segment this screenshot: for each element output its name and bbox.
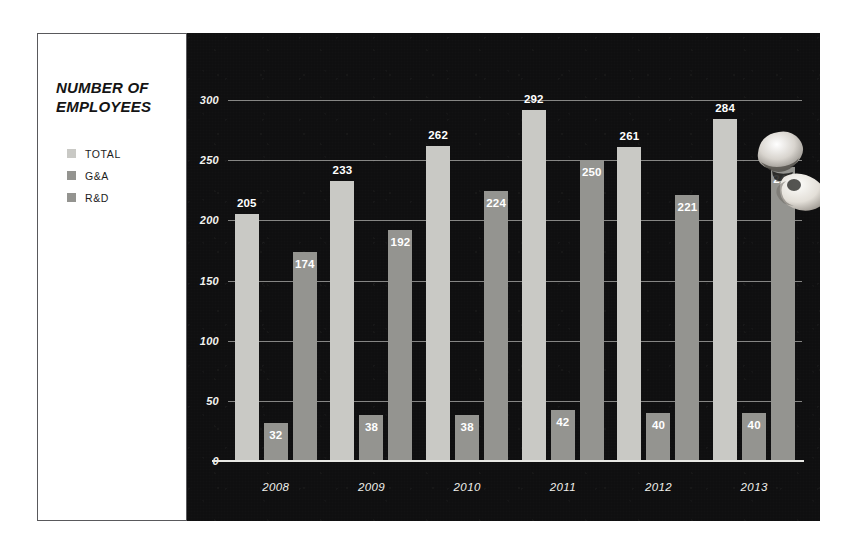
bar-value-label: 32 — [269, 429, 282, 441]
bar-total-2013[interactable]: 284 — [713, 119, 737, 461]
bar-total-2012[interactable]: 261 — [617, 147, 641, 461]
page-title: NUMBER OFEMPLOYEES — [56, 78, 176, 116]
bar-r-d-2009[interactable]: 192 — [388, 230, 412, 461]
bar-group-2008: 205321742008 — [228, 100, 324, 461]
bar-value-label: 221 — [678, 201, 698, 213]
bar-r-d-2008[interactable]: 174 — [293, 252, 317, 461]
bar-r-d-2012[interactable]: 221 — [675, 195, 699, 461]
legend-swatch-icon — [67, 149, 76, 158]
plot-area: 050100150200250300 205321742008233381922… — [228, 100, 802, 461]
legend-item-label: TOTAL — [85, 148, 121, 160]
y-axis-tick-label: 150 — [200, 275, 219, 287]
x-axis-tick-label: 2008 — [262, 481, 289, 493]
y-axis-tick-label: 250 — [200, 154, 219, 166]
x-axis-tick-label: 2009 — [358, 481, 385, 493]
y-axis-tick-label: 300 — [200, 94, 219, 106]
bar-value-label: 233 — [333, 164, 353, 176]
bar-total-2010[interactable]: 262 — [426, 146, 450, 461]
bar-group-2013: 284402442013 — [706, 100, 802, 461]
bar-g-a-2008[interactable]: 32 — [264, 423, 288, 462]
bar-value-label: 205 — [237, 197, 257, 209]
y-axis-tick-label: 200 — [200, 214, 219, 226]
bar-value-label: 40 — [748, 419, 761, 431]
bar-value-label: 250 — [582, 166, 602, 178]
bar-total-2008[interactable]: 205 — [235, 214, 259, 461]
y-axis-tick-label: 50 — [206, 395, 219, 407]
bar-group-2010: 262382242010 — [419, 100, 515, 461]
bar-r-d-2011[interactable]: 250 — [580, 160, 604, 461]
axis-baseline — [212, 460, 804, 462]
bar-g-a-2009[interactable]: 38 — [359, 415, 383, 461]
bar-total-2011[interactable]: 292 — [522, 110, 546, 461]
bar-r-d-2013[interactable]: 244 — [771, 167, 795, 461]
y-axis-tick-label: 100 — [200, 335, 219, 347]
bar-value-label: 262 — [428, 129, 448, 141]
x-axis-tick-label: 2011 — [550, 481, 576, 493]
scanned-page: 050100150200250300 205321742008233381922… — [0, 0, 849, 554]
bar-r-d-2010[interactable]: 224 — [484, 191, 508, 461]
page-title-line-1: EMPLOYEES — [56, 97, 176, 116]
bar-group-2011: 292422502011 — [515, 100, 611, 461]
bar-g-a-2013[interactable]: 40 — [742, 413, 766, 461]
legend-card: NUMBER OFEMPLOYEES TOTALG&AR&D — [37, 33, 187, 521]
bar-value-label: 174 — [295, 258, 315, 270]
legend-item-label: R&D — [85, 192, 109, 204]
bar-value-label: 42 — [556, 416, 569, 428]
bar-g-a-2010[interactable]: 38 — [455, 415, 479, 461]
legend-item-r-d[interactable]: R&D — [67, 188, 121, 207]
legend-item-label: G&A — [85, 170, 109, 182]
bar-value-label: 292 — [524, 93, 544, 105]
bar-value-label: 224 — [486, 197, 506, 209]
bar-value-label: 40 — [652, 419, 665, 431]
bar-value-label: 261 — [620, 130, 640, 142]
legend-swatch-icon — [67, 193, 76, 202]
bar-value-label: 38 — [365, 421, 378, 433]
bar-value-label: 192 — [391, 236, 411, 248]
bar-value-label: 244 — [773, 173, 793, 185]
bar-total-2009[interactable]: 233 — [330, 181, 354, 461]
legend-item-g-a[interactable]: G&A — [67, 166, 121, 185]
bar-value-label: 284 — [715, 102, 735, 114]
bar-g-a-2012[interactable]: 40 — [646, 413, 670, 461]
legend-item-total[interactable]: TOTAL — [67, 144, 121, 163]
x-axis-tick-label: 2010 — [454, 481, 481, 493]
page-title-line-0: NUMBER OF — [56, 78, 176, 97]
legend-swatch-icon — [67, 171, 76, 180]
bar-g-a-2011[interactable]: 42 — [551, 410, 575, 461]
x-axis-tick-label: 2012 — [645, 481, 672, 493]
legend: TOTALG&AR&D — [67, 144, 121, 210]
chart-panel: 050100150200250300 205321742008233381922… — [182, 33, 820, 521]
bar-group-2009: 233381922009 — [324, 100, 420, 461]
x-axis-tick-label: 2013 — [741, 481, 768, 493]
bar-group-2012: 261402212012 — [611, 100, 707, 461]
bar-value-label: 38 — [461, 421, 474, 433]
